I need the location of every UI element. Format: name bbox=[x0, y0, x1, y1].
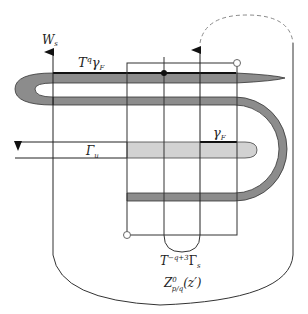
label-gamma-u: Γu bbox=[85, 144, 99, 160]
intersection-dot bbox=[161, 70, 167, 76]
label-z: Z0p/q(z′) bbox=[163, 276, 202, 293]
dashed-arc bbox=[200, 15, 293, 43]
label-gamma-f: γF bbox=[213, 125, 227, 142]
box-corner-top-right bbox=[234, 60, 241, 67]
box-corner-bottom-left bbox=[124, 232, 131, 239]
label-ws: Ws bbox=[42, 33, 58, 48]
label-t-gamma-s: T−q+3Γs bbox=[160, 254, 201, 270]
label-tq-gamma-f: TqγF bbox=[78, 55, 106, 72]
diagram-canvas: Ws TqγF γF Γu T−q+3Γs Z0p/q(z′) bbox=[0, 0, 308, 314]
